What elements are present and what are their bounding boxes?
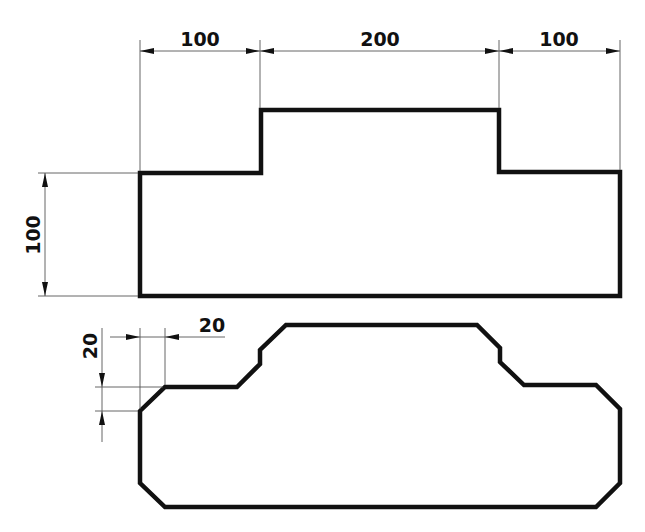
technical-drawing: 100 200 100 100 20 20 <box>0 0 645 532</box>
arrow-icon <box>260 48 274 54</box>
dim-label-chamfer-height: 20 <box>79 333 101 359</box>
top-shape-outline <box>140 110 620 296</box>
top-view: 100 200 100 100 <box>22 28 620 296</box>
arrow-icon <box>499 48 513 54</box>
arrow-icon <box>606 48 620 54</box>
bottom-view: 20 20 <box>79 314 620 507</box>
bottom-shape-outline <box>140 325 620 507</box>
arrow-icon <box>126 334 140 340</box>
dim-label-chamfer-width: 20 <box>199 314 225 336</box>
arrow-icon <box>99 373 105 387</box>
dim-label-height: 100 <box>22 215 44 255</box>
dim-label-center-width: 200 <box>360 28 400 50</box>
arrow-icon <box>42 282 48 296</box>
arrow-icon <box>485 48 499 54</box>
arrow-icon <box>42 173 48 187</box>
dim-label-left-width: 100 <box>180 28 220 50</box>
arrow-icon <box>246 48 260 54</box>
arrow-icon <box>165 334 179 340</box>
arrow-icon <box>99 411 105 425</box>
arrow-icon <box>140 48 154 54</box>
dim-label-right-width: 100 <box>539 28 579 50</box>
